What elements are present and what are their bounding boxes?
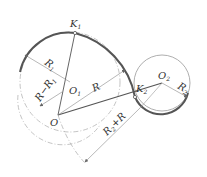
diagram-canvas: K1 O1 O K2 O2 R1 R−R1 R R2 R2+R — [0, 0, 207, 177]
arc-r-construction — [18, 95, 100, 145]
label-r2: R2 — [175, 80, 192, 97]
point-k2 — [133, 95, 136, 98]
arc-tangent-diagram: K1 O1 O K2 O2 R1 R−R1 R R2 R2+R — [0, 0, 207, 177]
arc-r-thick — [75, 33, 135, 97]
label-o1: O1 — [69, 85, 81, 97]
label-o2: O2 — [158, 70, 170, 82]
point-k1 — [73, 31, 76, 34]
label-o: O — [50, 117, 58, 128]
label-k2: K2 — [135, 83, 147, 95]
line-o-k1 — [58, 33, 75, 115]
label-r-minus-r1: R−R1 — [32, 75, 58, 105]
label-r2-plus-r: R2+R — [100, 110, 129, 139]
label-r: R — [89, 80, 102, 94]
arc-r2-plus-r-construction — [58, 115, 85, 163]
label-r1: R1 — [41, 56, 58, 73]
label-k1: K1 — [69, 18, 81, 30]
dim-line-r2-plus-r — [85, 108, 140, 162]
